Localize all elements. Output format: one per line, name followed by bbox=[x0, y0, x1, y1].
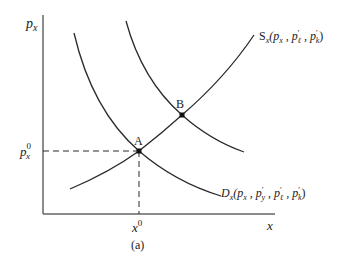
supply-curve bbox=[70, 35, 254, 189]
y-axis-label: px bbox=[25, 16, 38, 33]
quantity-equilibrium-label: x0 bbox=[131, 218, 143, 235]
equilibrium-point-a bbox=[137, 149, 142, 154]
supply-demand-diagram: A B px x p0x x0 (a) Sx(px , p′ℓ , p′k) D… bbox=[0, 0, 349, 265]
demand-curve-shifted bbox=[126, 21, 244, 152]
figure-caption: (a) bbox=[131, 238, 144, 252]
demand-curve-label: Dx(px , p′y , p′ℓ , p′k) bbox=[220, 186, 306, 202]
x-axis-label: x bbox=[266, 218, 273, 233]
demand-curve-original bbox=[74, 33, 221, 196]
equilibrium-point-b bbox=[180, 113, 185, 118]
point-label-b: B bbox=[176, 97, 184, 111]
point-label-a: A bbox=[134, 134, 143, 148]
supply-curve-label: Sx(px , p′ℓ , p′k) bbox=[259, 29, 323, 45]
price-equilibrium-label: p0x bbox=[19, 141, 32, 161]
